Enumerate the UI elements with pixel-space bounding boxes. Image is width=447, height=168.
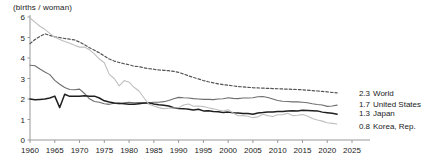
legend-value-korea-rep: 0.8: [359, 122, 371, 131]
series-line-united-states: [30, 65, 337, 106]
x-tick-label: 1990: [170, 146, 188, 155]
x-tick-label: 2000: [219, 146, 237, 155]
x-tick-label: 2005: [244, 146, 262, 155]
x-tick-label: 2010: [269, 146, 287, 155]
series-line-world: [30, 34, 337, 93]
x-tick-label: 1985: [145, 146, 163, 155]
x-tick-label: 1965: [46, 146, 64, 155]
legend-label-world: World: [373, 89, 394, 98]
y-tick-label: 2: [21, 95, 26, 104]
x-tick-label: 1960: [21, 146, 39, 155]
y-tick-label: 4: [21, 54, 26, 63]
x-tick-label: 2020: [318, 146, 336, 155]
legend-label-united-states: United States: [373, 100, 421, 109]
x-tick-label: 2015: [294, 146, 312, 155]
y-tick-label: 5: [21, 34, 26, 43]
y-tick-label: 1: [21, 116, 26, 125]
x-tick-label: 1970: [71, 146, 89, 155]
x-tick-label: 1980: [120, 146, 138, 155]
legend-value-world: 2.3: [359, 89, 371, 98]
x-tick-label: 2025: [343, 146, 361, 155]
chart-plot-area: 0123456196019651970197519801985199019952…: [0, 0, 447, 168]
y-tick-label: 6: [21, 13, 26, 22]
legend-value-japan: 1.3: [359, 109, 371, 118]
legend-value-united-states: 1.7: [359, 100, 371, 109]
y-tick-label: 3: [21, 75, 26, 84]
fertility-rate-chart: (births / woman) 01234561960196519701975…: [0, 0, 447, 168]
legend-label-japan: Japan: [373, 109, 395, 118]
y-tick-label: 0: [21, 136, 26, 145]
x-tick-label: 1995: [194, 146, 212, 155]
x-tick-label: 1975: [95, 146, 113, 155]
legend-label-korea-rep: Korea, Rep.: [373, 122, 416, 131]
